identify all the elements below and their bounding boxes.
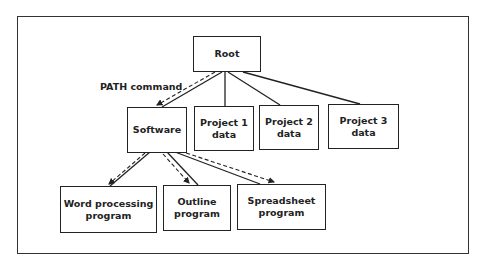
node-root-label: Root <box>215 48 240 60</box>
node-word-label-line2: program <box>86 210 132 222</box>
node-word-processing: Word processing program <box>60 186 157 233</box>
node-spreadsheet-label-line1: Spreadsheet <box>248 195 316 207</box>
node-project1: Project 1 data <box>194 106 254 151</box>
edge-root-project2 <box>228 72 280 105</box>
node-project2-label-line2: data <box>277 128 301 140</box>
path-arrow-software-word <box>109 153 145 184</box>
path-arrow-software-spreadsheet <box>180 151 274 182</box>
node-root: Root <box>193 36 261 72</box>
path-arrow-software-outline <box>163 154 189 183</box>
node-word-label-line1: Word processing <box>64 198 154 210</box>
node-project1-label-line1: Project 1 <box>200 117 248 129</box>
node-outline-label-line2: program <box>174 208 220 220</box>
node-spreadsheet: Spreadsheet program <box>237 184 326 230</box>
node-project3-label-line2: data <box>351 127 375 139</box>
node-project3-label-line1: Project 3 <box>340 115 388 127</box>
node-software: Software <box>127 107 187 153</box>
node-outline: Outline program <box>163 185 231 231</box>
node-project1-label-line2: data <box>212 129 236 141</box>
node-software-label: Software <box>133 124 181 136</box>
edge-software-spreadsheet <box>175 152 260 184</box>
node-project3: Project 3 data <box>328 104 399 149</box>
edge-software-word <box>110 152 150 186</box>
node-spreadsheet-label-line2: program <box>259 207 305 219</box>
path-command-label: PATH command <box>100 81 182 92</box>
node-project2-label-line1: Project 2 <box>265 116 313 128</box>
node-project2: Project 2 data <box>259 105 319 150</box>
edge-root-project3 <box>243 72 360 104</box>
edge-software-outline <box>167 152 198 185</box>
node-outline-label-line1: Outline <box>177 196 216 208</box>
